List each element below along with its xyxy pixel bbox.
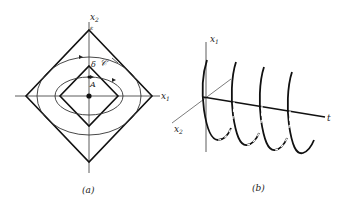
x2-axis-label: x2: [174, 124, 183, 135]
helix-dash-overlay: [218, 100, 290, 150]
arrow-icon: [90, 75, 94, 79]
point-a-marker: [88, 76, 91, 79]
x1-axis-label: x1: [161, 91, 170, 102]
panel-a: x2 x1 ε δ 𝒞 A (a): [15, 12, 170, 195]
equilibrium-point: [86, 93, 91, 98]
panel-b: x1 x2 t (b): [172, 34, 331, 193]
arrow-icon: [112, 78, 116, 82]
t-axis-label: t: [327, 113, 331, 123]
delta-label: δ: [91, 60, 96, 69]
caption-b: (b): [252, 183, 265, 193]
t-axis: [203, 97, 325, 117]
caption-a: (a): [82, 185, 95, 195]
x2-axis: [172, 79, 231, 123]
diagram-canvas: x2 x1 ε δ 𝒞 A (a) x1 x2 t (b): [0, 0, 340, 206]
x1-axis-label: x1: [210, 34, 219, 45]
point-a-label: A: [89, 80, 96, 89]
x2-axis-label: x2: [90, 12, 99, 23]
arrow-icon: [79, 55, 83, 59]
epsilon-label: ε: [90, 24, 93, 31]
